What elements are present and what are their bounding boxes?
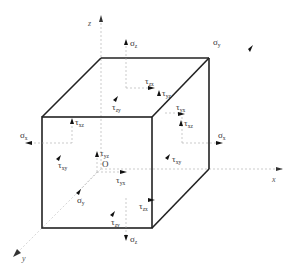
label-left-sigma-x: σx bbox=[20, 130, 28, 141]
guide-lines bbox=[30, 42, 218, 236]
label-inner-tau-yz: τyz bbox=[100, 148, 109, 159]
stress-labels: σz τzx τzy σy τyz τyx τxz σx τxy σx τxz … bbox=[20, 37, 226, 245]
label-right-sigma-x: σx bbox=[218, 130, 226, 141]
arrow-back-tau-yz bbox=[157, 90, 161, 96]
label-back-sigma-y: σy bbox=[213, 37, 221, 48]
arrow-bottom-sigma-z bbox=[124, 235, 128, 241]
arrow-right-tau-xz bbox=[179, 120, 183, 126]
z-axis-arrowhead bbox=[99, 15, 103, 22]
label-top-sigma-z: σz bbox=[130, 38, 138, 49]
cube-edge-bottom-right bbox=[152, 169, 209, 228]
coordinate-axes: z x y O bbox=[13, 15, 283, 263]
label-left-tau-xy: τxy bbox=[58, 160, 67, 171]
label-right-tau-xy: τxy bbox=[172, 154, 181, 165]
label-front-sigma-y: σy bbox=[77, 195, 85, 206]
arrow-inner-tau-yz bbox=[95, 151, 99, 157]
cube-front-face bbox=[42, 117, 152, 228]
label-right-tau-xz: τxz bbox=[184, 118, 193, 129]
label-right-tau-yx: τyx bbox=[176, 102, 185, 113]
arrow-left-sigma-x bbox=[25, 141, 32, 145]
stress-element-diagram: z x y O bbox=[0, 0, 293, 272]
label-top-tau-zx: τzx bbox=[145, 76, 154, 87]
y-axis bbox=[16, 169, 101, 254]
arrow-right-sigma-x bbox=[216, 141, 223, 145]
label-front-tau-zx: τzx bbox=[139, 201, 148, 212]
arrow-back-sigma-y bbox=[248, 45, 253, 52]
x-axis-label: x bbox=[271, 175, 276, 184]
arrow-left-tau-xz bbox=[70, 118, 74, 124]
label-top-tau-zy: τzy bbox=[112, 102, 121, 113]
arrow-inner-tau-yx bbox=[120, 170, 127, 174]
arrow-top-sigma-z bbox=[124, 39, 128, 45]
label-left-tau-xz: τxz bbox=[75, 117, 84, 128]
label-front-tau-zy: τzy bbox=[111, 217, 120, 228]
label-back-tau-yz: τyz bbox=[162, 88, 171, 99]
y-axis-label: y bbox=[21, 254, 26, 263]
arrow-right-tau-xy bbox=[165, 154, 170, 160]
origin-label: O bbox=[102, 159, 109, 169]
label-inner-tau-yx: τyx bbox=[116, 175, 125, 186]
x-axis-arrowhead bbox=[276, 167, 283, 171]
cube-edge-top-left bbox=[42, 58, 101, 117]
label-bottom-sigma-z: σz bbox=[130, 234, 138, 245]
z-axis-label: z bbox=[87, 19, 92, 28]
